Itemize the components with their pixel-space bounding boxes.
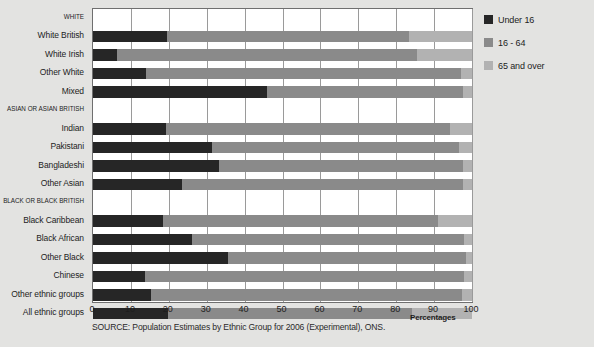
category-label: BLACK OR BLACK BRITISH bbox=[0, 192, 88, 210]
x-tick-label: 70 bbox=[352, 304, 362, 314]
bar-segment bbox=[163, 215, 437, 227]
category-label: White British bbox=[0, 26, 88, 44]
bar-segment bbox=[93, 179, 182, 191]
category-label: Pakistani bbox=[0, 137, 88, 155]
x-tick-label: 50 bbox=[276, 304, 286, 314]
bar-segment bbox=[463, 160, 472, 172]
category-label: Mixed bbox=[0, 82, 88, 100]
x-tick-label: 10 bbox=[125, 304, 135, 314]
bar-segment bbox=[409, 31, 472, 43]
bar-row bbox=[93, 215, 472, 227]
bar-segment bbox=[450, 123, 472, 135]
bar-segment bbox=[93, 252, 228, 264]
bar-segment bbox=[212, 142, 459, 154]
bar-row bbox=[93, 160, 472, 172]
bar-segment bbox=[192, 234, 465, 246]
category-label: Other Asian bbox=[0, 174, 88, 192]
bar-segment bbox=[219, 160, 462, 172]
legend-item[interactable]: 16 - 64 bbox=[484, 31, 588, 54]
category-label: Other White bbox=[0, 63, 88, 81]
bar-segment bbox=[146, 68, 461, 80]
bar-row bbox=[93, 123, 472, 135]
bar-row bbox=[93, 271, 472, 283]
bar-row bbox=[93, 289, 472, 301]
legend-swatch-icon bbox=[484, 38, 493, 47]
bar-segment bbox=[117, 49, 417, 61]
x-tick-label: 80 bbox=[390, 304, 400, 314]
bar-segment bbox=[417, 49, 472, 61]
legend-label: 65 and over bbox=[498, 61, 544, 71]
bar-segment bbox=[151, 289, 462, 301]
category-label: Black African bbox=[0, 229, 88, 247]
bar-segment bbox=[464, 271, 472, 283]
legend-swatch-icon bbox=[484, 61, 493, 70]
category-label: Black Caribbean bbox=[0, 211, 88, 229]
bar-row bbox=[93, 86, 472, 98]
bar-segment bbox=[182, 179, 464, 191]
legend-item[interactable]: Under 16 bbox=[484, 8, 588, 31]
bar-segment bbox=[93, 271, 145, 283]
bar-segment bbox=[166, 123, 450, 135]
legend-label: 16 - 64 bbox=[498, 38, 525, 48]
bar-segment bbox=[93, 123, 166, 135]
bar-segment bbox=[438, 215, 472, 227]
category-label: Other ethnic groups bbox=[0, 285, 88, 303]
category-label: ASIAN OR ASIAN BRITISH bbox=[0, 100, 88, 118]
legend-swatch-icon bbox=[484, 15, 493, 24]
x-tick-label: 30 bbox=[201, 304, 211, 314]
bar-segment bbox=[464, 234, 472, 246]
x-tick-label: 0 bbox=[89, 304, 94, 314]
bar-row bbox=[93, 31, 472, 43]
bar-segment bbox=[93, 160, 219, 172]
bar-segment bbox=[93, 31, 167, 43]
bar-segment bbox=[93, 68, 146, 80]
bar-segment bbox=[466, 252, 472, 264]
bar-segment bbox=[145, 271, 464, 283]
bar-segment bbox=[462, 289, 472, 301]
source-caption: SOURCE: Population Estimates by Ethnic G… bbox=[92, 322, 532, 332]
x-tick-label: 40 bbox=[239, 304, 249, 314]
category-label: Indian bbox=[0, 119, 88, 137]
category-label: White Irish bbox=[0, 45, 88, 63]
x-tick-label: 60 bbox=[314, 304, 324, 314]
bar-row bbox=[93, 179, 472, 191]
bar-segment bbox=[93, 49, 117, 61]
bar-rows bbox=[93, 9, 472, 302]
bar-row bbox=[93, 252, 472, 264]
category-label: Chinese bbox=[0, 266, 88, 284]
category-label: WHITE bbox=[0, 8, 88, 26]
legend-item[interactable]: 65 and over bbox=[484, 54, 588, 77]
category-label: All ethnic groups bbox=[0, 303, 88, 321]
bar-segment bbox=[463, 179, 472, 191]
bar-segment bbox=[93, 142, 212, 154]
chart-legend: Under 1616 - 6465 and over bbox=[484, 8, 588, 77]
category-label: Bangladeshi bbox=[0, 156, 88, 174]
bar-segment bbox=[267, 86, 463, 98]
x-tick-label: 100 bbox=[463, 304, 478, 314]
x-tick-label: 20 bbox=[163, 304, 173, 314]
bar-row bbox=[93, 68, 472, 80]
legend-label: Under 16 bbox=[498, 15, 534, 25]
bar-segment bbox=[93, 234, 192, 246]
ethnic-group-age-structure-chart: WHITEWhite BritishWhite IrishOther White… bbox=[0, 0, 594, 347]
plot-area bbox=[92, 8, 473, 303]
gridline bbox=[472, 9, 473, 302]
bar-segment bbox=[461, 68, 472, 80]
bar-segment bbox=[459, 142, 472, 154]
bar-row bbox=[93, 49, 472, 61]
bar-segment bbox=[93, 86, 267, 98]
bar-segment bbox=[463, 86, 472, 98]
bar-segment bbox=[228, 252, 465, 264]
bar-segment bbox=[93, 289, 151, 301]
bar-segment bbox=[167, 31, 410, 43]
bar-segment bbox=[93, 215, 163, 227]
bar-row bbox=[93, 234, 472, 246]
x-axis-title: Percentages bbox=[410, 313, 455, 322]
bar-row bbox=[93, 142, 472, 154]
category-axis-labels: WHITEWhite BritishWhite IrishOther White… bbox=[0, 8, 88, 321]
category-label: Other Black bbox=[0, 248, 88, 266]
